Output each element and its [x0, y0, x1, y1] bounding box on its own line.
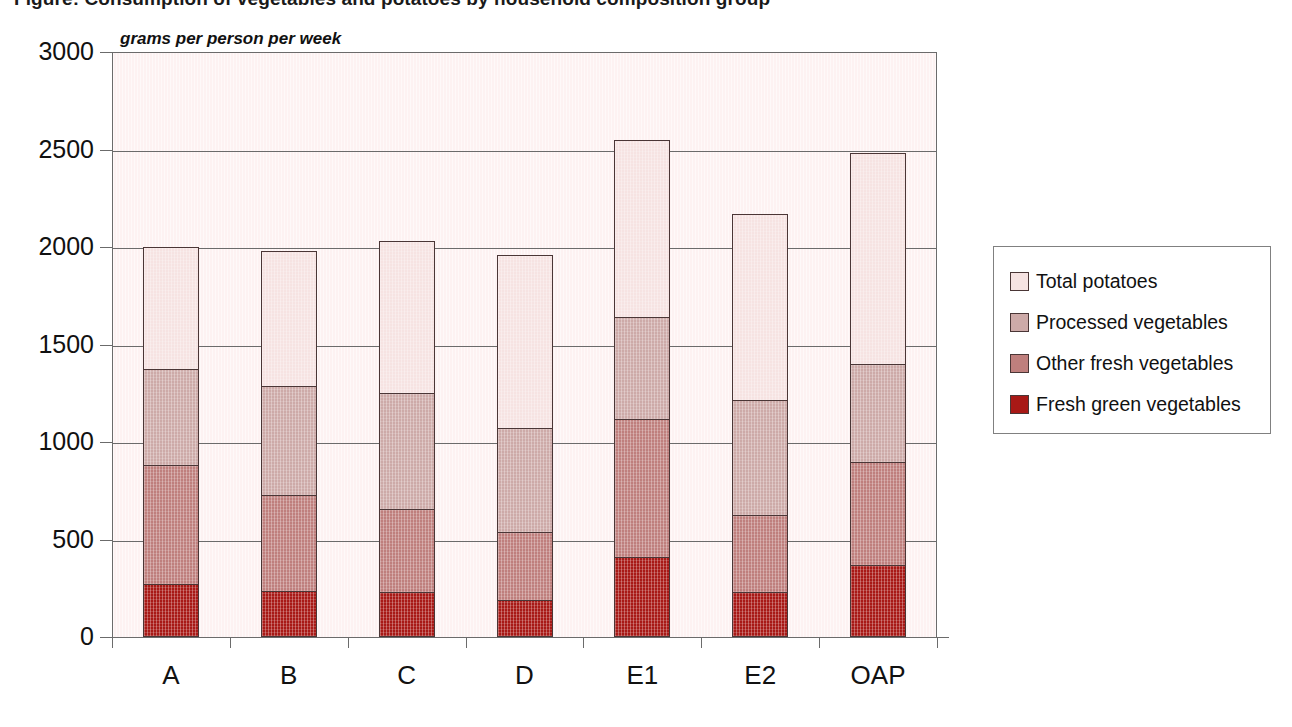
- y-axis-tick: [100, 540, 112, 541]
- bar-segment-total-potatoes[interactable]: [379, 241, 435, 393]
- x-axis-tick: [583, 637, 584, 648]
- bar-segment-total-potatoes[interactable]: [614, 140, 670, 317]
- gridline: [113, 151, 936, 152]
- bar-segment-fresh-green-vegetables[interactable]: [261, 591, 317, 637]
- legend-item-label: Fresh green vegetables: [1036, 395, 1241, 414]
- x-axis-tick-label: A: [111, 660, 231, 691]
- legend-item-processed-vegetables[interactable]: Processed vegetables: [1010, 302, 1270, 343]
- bar-segment-total-potatoes[interactable]: [261, 251, 317, 387]
- x-axis-tick-label: E1: [582, 660, 702, 691]
- y-axis-labels: 300025002000150010005000: [16, 0, 94, 727]
- chart-area: grams per person per week 30002500200015…: [0, 0, 960, 727]
- bar-oap[interactable]: [850, 153, 906, 637]
- bar-segment-fresh-green-vegetables[interactable]: [614, 557, 670, 637]
- bar-segment-total-potatoes[interactable]: [850, 153, 906, 364]
- bar-segment-other-fresh-vegetables[interactable]: [850, 462, 906, 565]
- bar-segment-other-fresh-vegetables[interactable]: [143, 465, 199, 584]
- bar-segment-other-fresh-vegetables[interactable]: [497, 532, 553, 600]
- y-axis-tick-label: 0: [16, 624, 94, 649]
- bar-segment-other-fresh-vegetables[interactable]: [261, 495, 317, 592]
- y-axis-tick: [100, 637, 112, 638]
- bar-a[interactable]: [143, 247, 199, 637]
- legend-item-total-potatoes[interactable]: Total potatoes: [1010, 261, 1270, 302]
- y-axis-tick-label: 1500: [16, 332, 94, 357]
- legend-swatch-icon: [1010, 272, 1029, 291]
- legend-item-label: Processed vegetables: [1036, 313, 1228, 332]
- y-axis-tick: [100, 52, 112, 53]
- y-axis-tick-label: 3000: [16, 39, 94, 64]
- x-axis-tick-label: C: [347, 660, 467, 691]
- x-axis-tick: [348, 637, 349, 648]
- bar-segment-processed-vegetables[interactable]: [261, 386, 317, 494]
- y-axis-tick-label: 1000: [16, 429, 94, 454]
- gridline: [113, 248, 936, 249]
- bar-segment-processed-vegetables[interactable]: [732, 400, 788, 515]
- x-axis-tick: [466, 637, 467, 648]
- y-axis-tick: [100, 345, 112, 346]
- y-axis-tick: [100, 442, 112, 443]
- bar-segment-processed-vegetables[interactable]: [379, 393, 435, 509]
- x-axis-tick-label: B: [229, 660, 349, 691]
- bar-segment-total-potatoes[interactable]: [497, 255, 553, 429]
- legend-item-label: Total potatoes: [1036, 272, 1157, 291]
- y-axis-tick-label: 2000: [16, 234, 94, 259]
- legend-swatch-icon: [1010, 313, 1029, 332]
- bar-b[interactable]: [261, 251, 317, 637]
- legend-item-label: Other fresh vegetables: [1036, 354, 1233, 373]
- bar-segment-processed-vegetables[interactable]: [850, 364, 906, 462]
- x-axis-line: [100, 637, 949, 638]
- x-axis-tick: [701, 637, 702, 648]
- bar-segment-processed-vegetables[interactable]: [497, 428, 553, 531]
- bar-segment-total-potatoes[interactable]: [143, 247, 199, 369]
- bar-c[interactable]: [379, 241, 435, 637]
- x-axis-tick-label: OAP: [818, 660, 938, 691]
- y-axis-tick-label: 2500: [16, 137, 94, 162]
- x-axis-tick: [937, 637, 938, 648]
- bar-segment-other-fresh-vegetables[interactable]: [732, 515, 788, 592]
- x-axis-tick-label: D: [465, 660, 585, 691]
- bar-e1[interactable]: [614, 140, 670, 637]
- x-axis-tick: [112, 637, 113, 648]
- bar-segment-total-potatoes[interactable]: [732, 214, 788, 400]
- y-axis-tick: [100, 150, 112, 151]
- bar-segment-fresh-green-vegetables[interactable]: [143, 584, 199, 637]
- legend-swatch-icon: [1010, 395, 1029, 414]
- bar-segment-fresh-green-vegetables[interactable]: [850, 565, 906, 637]
- bar-segment-processed-vegetables[interactable]: [614, 317, 670, 418]
- bar-segment-processed-vegetables[interactable]: [143, 369, 199, 466]
- legend-item-fresh-green-vegetables[interactable]: Fresh green vegetables: [1010, 384, 1270, 425]
- bar-segment-other-fresh-vegetables[interactable]: [379, 509, 435, 592]
- y-axis-tick-label: 500: [16, 527, 94, 552]
- x-axis-tick-label: E2: [700, 660, 820, 691]
- legend-item-other-fresh-vegetables[interactable]: Other fresh vegetables: [1010, 343, 1270, 384]
- bar-segment-fresh-green-vegetables[interactable]: [497, 600, 553, 637]
- bar-segment-fresh-green-vegetables[interactable]: [732, 592, 788, 637]
- legend-swatch-icon: [1010, 354, 1029, 373]
- y-axis-tick: [100, 247, 112, 248]
- x-axis-tick: [230, 637, 231, 648]
- bar-segment-other-fresh-vegetables[interactable]: [614, 419, 670, 557]
- x-axis-tick: [819, 637, 820, 648]
- bar-e2[interactable]: [732, 214, 788, 637]
- legend: Total potatoesProcessed vegetablesOther …: [993, 246, 1271, 434]
- bar-d[interactable]: [497, 255, 553, 637]
- bar-segment-fresh-green-vegetables[interactable]: [379, 592, 435, 637]
- y-axis-units-label: grams per person per week: [120, 29, 341, 49]
